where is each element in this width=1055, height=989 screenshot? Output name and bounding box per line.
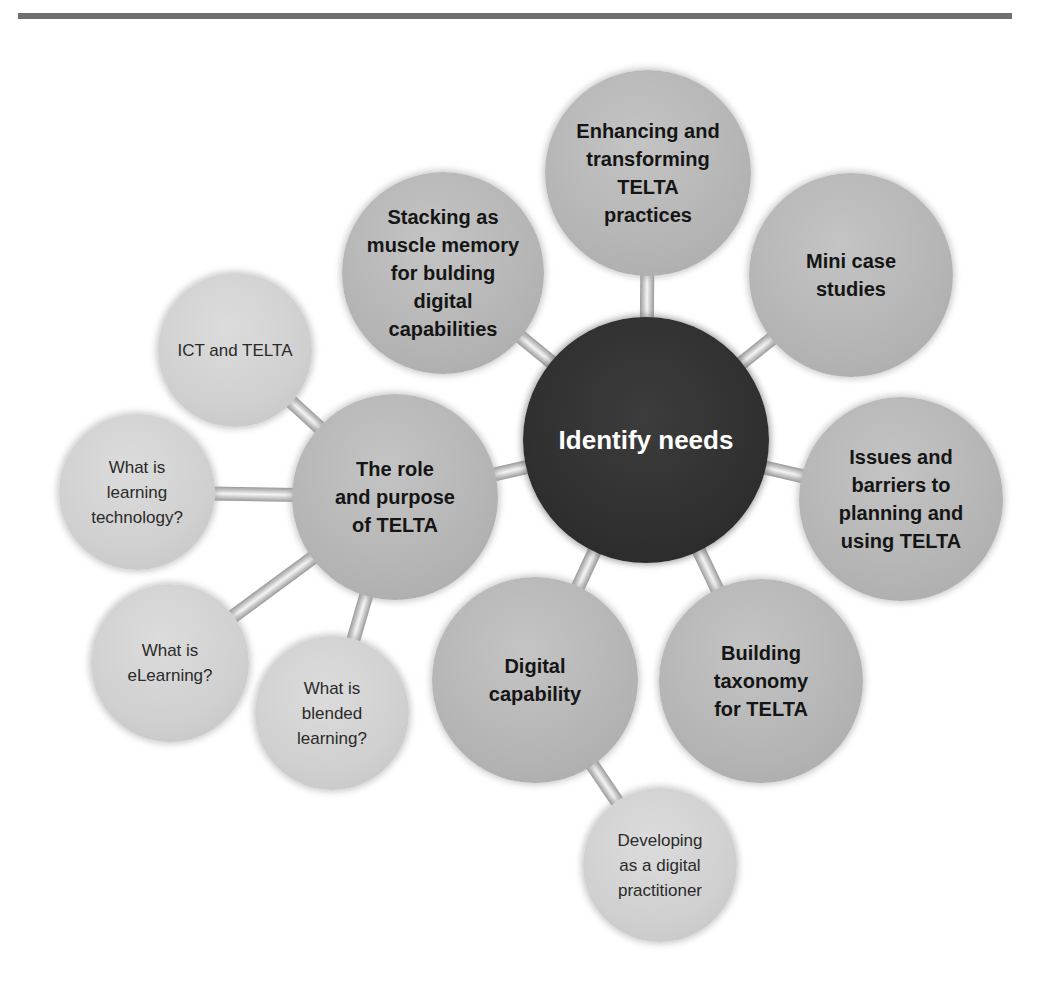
node-label-line: using TELTA [839, 527, 963, 555]
node-label-line: for bulding [367, 259, 519, 287]
node-issues: Issues andbarriers toplanning andusing T… [799, 397, 1003, 601]
node-label-line: taxonomy [714, 667, 808, 695]
node-label: The roleand purposeof TELTA [323, 455, 467, 539]
connector-role-learntech [209, 486, 298, 502]
node-label: Issues andbarriers toplanning andusing T… [827, 443, 975, 555]
node-label-line: digital [367, 287, 519, 315]
node-label: ICT and TELTA [170, 338, 301, 363]
node-label-line: capabilities [367, 315, 519, 343]
node-blended: What isblendedlearning? [255, 636, 409, 790]
node-stacking: Stacking asmuscle memoryfor buldingdigit… [342, 172, 544, 374]
node-building: Buildingtaxonomyfor TELTA [659, 579, 863, 783]
node-label: Developingas a digitalpractitioner [609, 828, 710, 903]
node-mini: Mini casestudies [749, 173, 953, 377]
node-label-line: learning? [297, 726, 367, 751]
node-label-line: technology? [91, 505, 183, 530]
node-digital: Digitalcapability [432, 577, 638, 783]
node-label-line: What is [91, 455, 183, 480]
node-label-line: learning [91, 480, 183, 505]
node-hub: Identify needs [523, 317, 769, 563]
node-role: The roleand purposeof TELTA [292, 394, 498, 600]
node-label: Mini casestudies [794, 247, 908, 303]
node-label-line: transforming [576, 145, 719, 173]
node-label-line: Digital [489, 652, 581, 680]
connector-role-elearning [225, 549, 322, 625]
node-label-line: and purpose [335, 483, 455, 511]
node-label: Buildingtaxonomyfor TELTA [702, 639, 820, 723]
node-label-line: as a digital [617, 853, 702, 878]
node-ict: ICT and TELTA [158, 273, 312, 427]
node-label-line: practitioner [617, 878, 702, 903]
node-label-line: Issues and [839, 443, 963, 471]
node-label-line: Enhancing and [576, 117, 719, 145]
node-label-line: Stacking as [367, 203, 519, 231]
node-label-line: The role [335, 455, 455, 483]
node-label: Stacking asmuscle memoryfor buldingdigit… [355, 203, 531, 343]
node-label-line: What is [297, 676, 367, 701]
node-label-line: blended [297, 701, 367, 726]
node-label-line: studies [806, 275, 896, 303]
node-label-line: What is [127, 638, 212, 663]
node-enhancing: Enhancing andtransformingTELTApractices [545, 70, 751, 276]
node-label-line: muscle memory [367, 231, 519, 259]
node-label-line: planning and [839, 499, 963, 527]
node-label: Identify needs [559, 424, 734, 456]
node-label-line: practices [576, 201, 719, 229]
node-learntech: What islearningtechnology? [59, 414, 215, 570]
node-label: Digitalcapability [477, 652, 593, 708]
node-label: What isblendedlearning? [289, 676, 375, 751]
node-developing: Developingas a digitalpractitioner [583, 788, 737, 942]
node-label-line: capability [489, 680, 581, 708]
node-label-line: of TELTA [335, 511, 455, 539]
node-label-line: Building [714, 639, 808, 667]
node-label-line: Mini case [806, 247, 896, 275]
connector-hub-enhancing [640, 270, 654, 323]
node-label-line: barriers to [839, 471, 963, 499]
node-label: What iseLearning? [119, 638, 220, 688]
node-label-line: eLearning? [127, 663, 212, 688]
node-label-line: Developing [617, 828, 702, 853]
node-label-line: TELTA [576, 173, 719, 201]
node-label-line: for TELTA [714, 695, 808, 723]
node-elearning: What iseLearning? [91, 584, 249, 742]
node-label: Enhancing andtransformingTELTApractices [564, 117, 731, 229]
node-label-line: ICT and TELTA [178, 338, 293, 363]
node-label: What islearningtechnology? [83, 455, 191, 530]
